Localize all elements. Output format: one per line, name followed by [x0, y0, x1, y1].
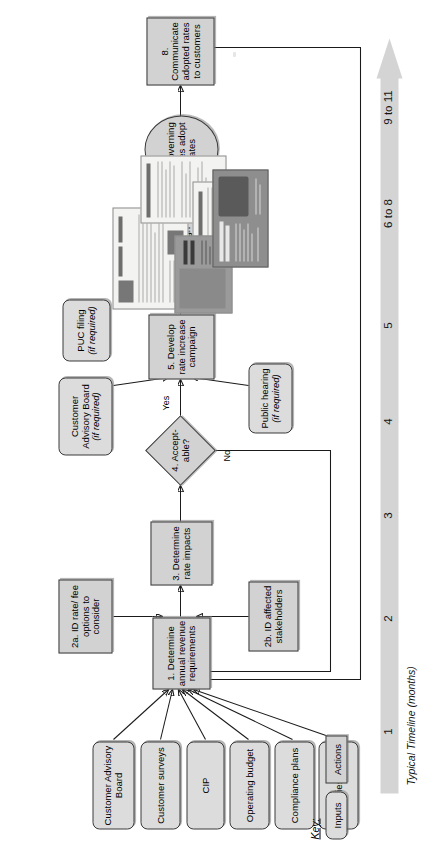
optional-label-line2: (if required)	[86, 302, 97, 358]
step-2a-id-rate-fee-options[interactable]: 2a. ID rate/ fee options to consider	[58, 579, 112, 653]
edge-label-yes: Yes	[160, 395, 170, 410]
timeline-tick: 1	[381, 728, 393, 734]
step-label: 3. Determine rate impacts	[170, 524, 191, 582]
optional-label-line1: Customer Advisory Board	[69, 380, 90, 452]
input-customer-advisory-board[interactable]: Customer Advisory Board	[92, 741, 134, 829]
legend-swatch-inputs: Inputs	[325, 791, 347, 839]
step-5-develop-rate-increase-campaign[interactable]: 5. Develop rate increase campaign	[148, 314, 214, 379]
step-1-determine-annual-revenue-requirements[interactable]: 1. Determine annual revenue requirements	[152, 617, 210, 689]
optional-label-line1: PUC filing	[75, 302, 86, 358]
input-cip[interactable]: CIP	[186, 741, 224, 829]
input-label: Customer Advisory Board	[102, 744, 123, 826]
step-label: 1. Determine annual revenue requirements	[165, 620, 197, 686]
step-4-acceptable-decision[interactable]: 4. Accept- able?	[155, 425, 205, 475]
step-label: 2a. ID rate/ fee options to consider	[69, 582, 101, 650]
legend-title: Key:	[308, 818, 320, 839]
timeline-tick: 5	[381, 322, 393, 328]
legend-swatch-actions: Actions	[325, 735, 347, 783]
flowchart-stage: Customer Advisory Board Customer surveys…	[0, 0, 440, 847]
timeline-tick: 9 to 11	[381, 90, 393, 124]
timeline-tick: 6 to 8	[381, 199, 393, 228]
timeline-tick: 4	[381, 418, 393, 424]
optional-public-hearing[interactable]: Public hearing (if required)	[248, 363, 292, 433]
step-label: 2b. ID affected stakeholders	[262, 584, 283, 648]
step-8-communicate-adopted-rates[interactable]: 8. Communicate adopted rates to customer…	[146, 17, 214, 85]
optional-label-line1: Public hearing	[259, 366, 270, 430]
legend-key: Key: Inputs Actions	[308, 679, 362, 839]
newspaper-collage	[112, 143, 266, 319]
timeline-tick: 2	[381, 615, 393, 621]
step-label: 4. Accept- able?	[155, 425, 205, 475]
legend-actions-label: Actions	[331, 743, 342, 774]
timeline-caption: Typical Timeline (months)	[404, 666, 416, 785]
edge-label-no: No	[221, 449, 231, 461]
input-customer-surveys[interactable]: Customer surveys	[140, 741, 180, 829]
input-operating-budget[interactable]: Operating budget	[229, 741, 269, 829]
step-2b-id-affected-stakeholders[interactable]: 2b. ID affected stakeholders	[248, 581, 298, 651]
optional-puc-filing[interactable]: PUC filing (if required)	[62, 299, 110, 361]
newspaper-advertisement-clipping	[212, 169, 268, 267]
typical-timeline-axis: 1 2 3 4 5 6 to 8 9 to 11	[376, 38, 402, 793]
legend-inputs-label: Inputs	[331, 802, 342, 828]
step-3-determine-rate-impacts[interactable]: 3. Determine rate impacts	[150, 521, 212, 585]
optional-label-line2: (if required)	[90, 380, 101, 452]
optional-label-line2: (if required)	[270, 366, 281, 430]
input-label: Operating budget	[244, 744, 255, 826]
timeline-arrowhead-icon	[376, 38, 402, 78]
input-label: Customer surveys	[155, 744, 166, 826]
input-label: CIP	[200, 744, 211, 826]
timeline-bar	[380, 77, 398, 793]
step-label: 5. Develop rate increase campaign	[165, 317, 197, 376]
timeline-tick: 3	[381, 512, 393, 518]
input-label: Compliance plans	[289, 744, 300, 826]
step-label: 8. Communicate adopted rates to customer…	[159, 20, 202, 82]
optional-customer-advisory-board[interactable]: Customer Advisory Board (if required)	[58, 377, 112, 455]
scan-artifact-speck	[233, 52, 236, 57]
